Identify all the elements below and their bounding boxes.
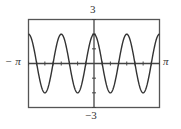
axes — [28, 20, 159, 108]
x-min-label: − π — [5, 56, 21, 67]
y-max-label: 3 — [90, 4, 96, 15]
y-min-label: −3 — [85, 110, 97, 121]
x-max-label: π — [163, 56, 169, 67]
